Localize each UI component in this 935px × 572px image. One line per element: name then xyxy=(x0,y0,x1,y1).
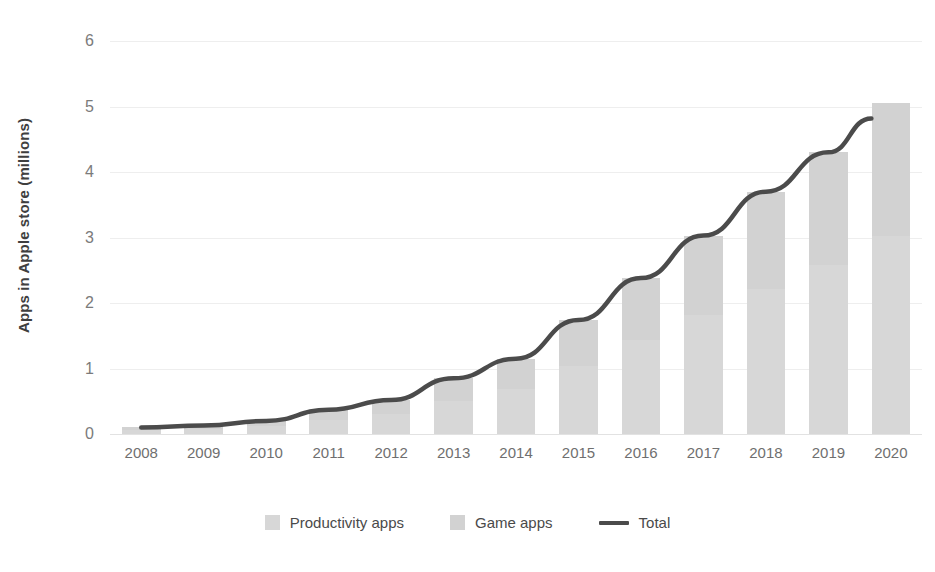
y-axis-tick-label: 0 xyxy=(60,425,94,443)
bar-slot xyxy=(297,41,359,434)
bar-slot xyxy=(110,41,172,434)
bar-slot xyxy=(547,41,609,434)
bar-segment xyxy=(372,400,411,414)
bar-segment xyxy=(559,320,598,366)
y-axis-title: Apps in Apple store (millions) xyxy=(6,0,40,450)
bar-segment xyxy=(684,236,723,315)
x-axis-tick-label: 2009 xyxy=(172,444,234,461)
bar-segment xyxy=(622,278,661,340)
bar-slot xyxy=(672,41,734,434)
x-axis-tick-labels: 2008200920102011201220132014201520162017… xyxy=(110,444,922,461)
bar-segment xyxy=(809,152,848,265)
bar-slot xyxy=(860,41,922,434)
bar-stack[interactable] xyxy=(809,152,848,434)
bar-segment xyxy=(747,289,786,434)
bar-segment xyxy=(497,359,536,389)
bar-slot xyxy=(235,41,297,434)
bar-segment xyxy=(309,420,348,434)
legend-item[interactable]: Total xyxy=(599,514,671,531)
legend-label: Productivity apps xyxy=(290,514,404,531)
square-swatch-game-icon xyxy=(450,515,465,530)
bar-segment xyxy=(497,389,536,434)
bar-segment xyxy=(684,315,723,434)
line-swatch-total-icon xyxy=(599,521,629,525)
y-axis-tick-label: 3 xyxy=(60,229,94,247)
bar-stack[interactable] xyxy=(747,192,786,434)
x-axis-tick-label: 2019 xyxy=(797,444,859,461)
gridline xyxy=(110,434,922,435)
square-swatch-productivity-icon xyxy=(265,515,280,530)
bar-stack[interactable] xyxy=(872,103,911,434)
bar-segment xyxy=(872,236,911,434)
x-axis-tick-label: 2008 xyxy=(110,444,172,461)
legend-label: Total xyxy=(639,514,671,531)
bar-segment xyxy=(559,366,598,434)
chart-legend: Productivity appsGame appsTotal xyxy=(0,514,935,531)
bar-stack[interactable] xyxy=(247,421,286,434)
bar-segment xyxy=(809,265,848,434)
y-axis-tick-label: 4 xyxy=(60,163,94,181)
y-axis-tick-label: 5 xyxy=(60,98,94,116)
y-axis-tick-label: 1 xyxy=(60,360,94,378)
x-axis-tick-label: 2020 xyxy=(860,444,922,461)
bar-stack[interactable] xyxy=(309,410,348,434)
x-axis-tick-label: 2011 xyxy=(297,444,359,461)
bar-segment xyxy=(872,103,911,235)
plot-area xyxy=(110,41,922,434)
bar-series-group xyxy=(110,41,922,434)
legend-label: Game apps xyxy=(475,514,553,531)
bar-segment xyxy=(247,426,286,434)
bar-segment xyxy=(434,378,473,400)
bar-segment xyxy=(434,401,473,434)
bar-segment xyxy=(747,192,786,289)
x-axis-tick-label: 2014 xyxy=(485,444,547,461)
bar-segment xyxy=(372,414,411,434)
x-axis-tick-label: 2018 xyxy=(735,444,797,461)
bar-stack[interactable] xyxy=(559,320,598,434)
bar-stack[interactable] xyxy=(622,278,661,434)
y-axis-title-text: Apps in Apple store (millions) xyxy=(15,118,32,333)
bar-stack[interactable] xyxy=(122,427,161,434)
x-axis-tick-label: 2010 xyxy=(235,444,297,461)
y-axis-tick-label: 2 xyxy=(60,294,94,312)
chart-container: Apps in Apple store (millions) 0123456 2… xyxy=(0,0,935,572)
x-axis-tick-label: 2012 xyxy=(360,444,422,461)
x-axis-tick-label: 2015 xyxy=(547,444,609,461)
bar-slot xyxy=(485,41,547,434)
bar-slot xyxy=(797,41,859,434)
x-axis-tick-label: 2016 xyxy=(610,444,672,461)
bar-stack[interactable] xyxy=(434,378,473,434)
bar-slot xyxy=(172,41,234,434)
y-axis-tick-labels: 0123456 xyxy=(60,41,94,434)
legend-item[interactable]: Game apps xyxy=(450,514,553,531)
bar-slot xyxy=(735,41,797,434)
bar-stack[interactable] xyxy=(372,400,411,434)
x-axis-tick-label: 2017 xyxy=(672,444,734,461)
y-axis-tick-label: 6 xyxy=(60,32,94,50)
bar-slot xyxy=(422,41,484,434)
bar-stack[interactable] xyxy=(184,426,223,435)
bar-segment xyxy=(184,429,223,434)
legend-item[interactable]: Productivity apps xyxy=(265,514,404,531)
x-axis-tick-label: 2013 xyxy=(422,444,484,461)
bar-segment xyxy=(309,410,348,420)
bar-stack[interactable] xyxy=(684,236,723,434)
bar-segment xyxy=(622,340,661,434)
bar-slot xyxy=(610,41,672,434)
bar-stack[interactable] xyxy=(497,359,536,434)
bar-segment xyxy=(122,430,161,434)
bar-slot xyxy=(360,41,422,434)
